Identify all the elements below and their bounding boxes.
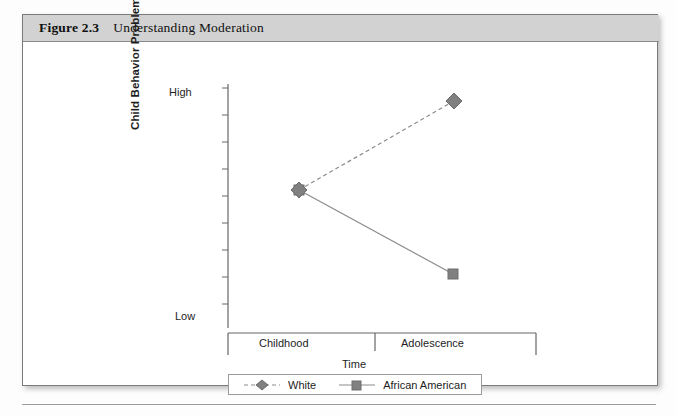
figure-number: Figure 2.3 (39, 20, 99, 36)
legend-marker-diamond-icon (243, 379, 281, 391)
y-axis-ticks (222, 88, 228, 304)
y-axis-label-high: High (169, 86, 192, 98)
legend-marker-square-icon (338, 379, 376, 391)
legend-label-african-american: African American (383, 379, 466, 391)
y-axis-title: Child Behavior Problems (129, 0, 141, 130)
data-point-african-american-adolescence (448, 269, 458, 279)
page-canvas: Figure 2.3 Understanding Moderation (0, 0, 676, 416)
x-axis-title: Time (342, 358, 366, 370)
legend-label-white: White (288, 379, 316, 391)
x-axis-category-adolescence: Adolescence (401, 337, 464, 349)
series-line-white (299, 101, 454, 190)
data-point-white-childhood (291, 182, 307, 198)
chart-svg (23, 42, 659, 386)
legend-entry-african-american: African American (338, 379, 466, 391)
legend-entry-white: White (243, 379, 316, 391)
figure-box: Figure 2.3 Understanding Moderation (22, 14, 658, 386)
y-axis-label-low: Low (175, 310, 195, 322)
data-point-white-adolescence (446, 93, 462, 109)
chart-legend: White African American (228, 374, 482, 395)
x-axis-category-childhood: Childhood (259, 337, 309, 349)
chart-plot-area: High Low Child Behavior Problems Childho… (23, 42, 659, 386)
series-line-african-american (299, 190, 453, 274)
page-bottom-rule (22, 404, 656, 405)
figure-caption-bar: Figure 2.3 Understanding Moderation (23, 15, 659, 42)
